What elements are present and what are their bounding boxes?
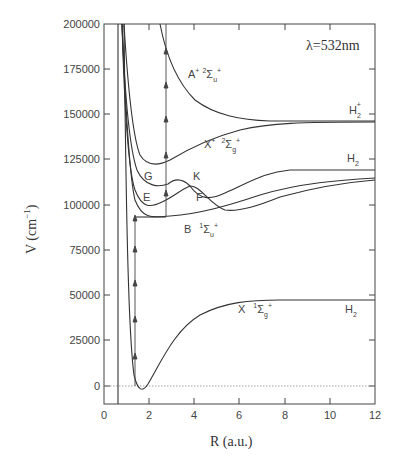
x-tick-label: 12 xyxy=(369,409,381,421)
svg-text:V (cm−1): V (cm−1) xyxy=(22,204,40,254)
svg-text:H2: H2 xyxy=(345,303,357,318)
y-axis-label: V (cm−1) xyxy=(22,204,40,254)
x-tick-label: 4 xyxy=(191,409,197,421)
y-axis xyxy=(104,69,375,386)
svg-text:X1Σg+: X1Σg+ xyxy=(238,302,272,319)
x-tick-label: 0 xyxy=(101,409,107,421)
svg-text:E: E xyxy=(143,191,150,203)
y-tick-label: 150000 xyxy=(63,108,100,120)
x-tick-label: 2 xyxy=(146,409,152,421)
y-tick-label: 50000 xyxy=(69,289,100,301)
y-tick-label: 125000 xyxy=(63,153,100,165)
wavelength-annotation: λ=532nm xyxy=(306,38,360,53)
x-tick-label: 10 xyxy=(324,409,336,421)
svg-text:H2+: H2+ xyxy=(349,101,361,119)
svg-text:B1Σu+: B1Σu+ xyxy=(184,222,218,238)
curves xyxy=(118,24,375,404)
y-tick-label: 25000 xyxy=(69,334,100,346)
svg-text:X+2Σg+: X+2Σg+ xyxy=(204,137,240,154)
y-tick-label: 175000 xyxy=(63,63,100,75)
state-labels: A+2Σu+ X+2Σg+ G K E F B1Σu+ X1Σg+ H2+ H2… xyxy=(143,67,361,319)
x-axis-label: R (a.u.) xyxy=(210,434,253,450)
svg-text:F: F xyxy=(196,191,203,203)
svg-text:A+2Σu+: A+2Σu+ xyxy=(188,67,221,83)
y-tick-label: 200000 xyxy=(63,18,100,30)
x-axis xyxy=(149,24,330,404)
y-tick-label: 100000 xyxy=(63,199,100,211)
y-tick-label: 75000 xyxy=(69,244,100,256)
svg-text:K: K xyxy=(193,170,201,182)
potential-energy-chart: 0 25000 50000 75000 100000 125000 150000… xyxy=(0,0,396,463)
curve-X-ground xyxy=(124,24,375,389)
y-tick-label: 0 xyxy=(94,380,100,392)
x-tick-label: 8 xyxy=(282,409,288,421)
x-tick-label: 6 xyxy=(236,409,242,421)
svg-text:H2: H2 xyxy=(347,152,359,167)
svg-text:G: G xyxy=(144,170,153,182)
